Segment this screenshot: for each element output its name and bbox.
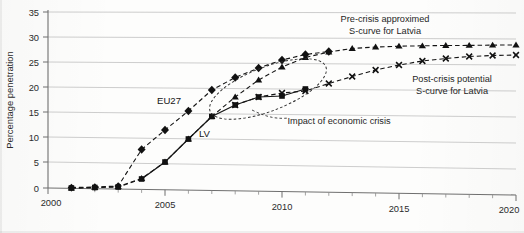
y-tick-label-15: 15 xyxy=(29,108,39,118)
x-tick-label-2015: 2015 xyxy=(389,204,410,214)
x-tick-label-2020: 2020 xyxy=(499,205,520,215)
series-lv xyxy=(69,86,309,191)
annotation-post-crisis-line-1: Post-crisis potential xyxy=(412,74,492,84)
scan-edge-left xyxy=(0,0,2,233)
annotation-pre-crisis-line-1: Pre-crisis approximed xyxy=(341,14,430,24)
annotation-pre-crisis: Pre-crisis approximed S-curve for Latvia xyxy=(341,14,430,36)
x-tick-label-2010: 2010 xyxy=(272,202,293,212)
y-tick-label-25: 25 xyxy=(29,58,39,68)
y-tick-label-20: 20 xyxy=(29,83,39,93)
series-lv-markers xyxy=(69,86,309,191)
annotation-post-crisis-line-2: S-curve for Latvia xyxy=(416,86,489,96)
y-tick-label-0: 0 xyxy=(34,184,39,194)
y-axis-ticks xyxy=(43,12,48,188)
series-label-eu27: EU27 xyxy=(157,95,181,106)
y-tick-label-10: 10 xyxy=(29,133,39,143)
annotation-post-crisis: Post-crisis potential S-curve for Latvia xyxy=(412,74,492,96)
x-axis-ticks xyxy=(48,188,516,201)
scan-edge-bottom xyxy=(0,231,524,233)
series-label-lv: LV xyxy=(199,128,211,139)
x-tick-label-2005: 2005 xyxy=(155,200,176,210)
chart-figure: 35 30 25 20 15 10 5 0 Percentage penetra… xyxy=(0,0,524,233)
annotation-impact-of-crisis: Impact of economic crisis xyxy=(287,116,391,126)
y-axis-labels: 35 30 25 20 15 10 5 0 xyxy=(29,8,39,194)
y-tick-label-5: 5 xyxy=(34,158,39,168)
chart-canvas: 35 30 25 20 15 10 5 0 Percentage penetra… xyxy=(0,0,524,233)
y-axis-title: Percentage penetration xyxy=(4,51,15,148)
x-axis-labels: 2000 2005 2010 2015 2020 xyxy=(41,198,520,215)
y-tick-label-30: 30 xyxy=(29,33,39,43)
x-tick-label-2000: 2000 xyxy=(41,198,62,208)
annotation-pre-crisis-line-2: S-curve for Latvia xyxy=(349,26,422,36)
y-tick-label-35: 35 xyxy=(29,8,39,18)
